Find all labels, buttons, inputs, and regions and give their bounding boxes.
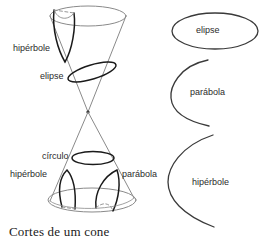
- upper-hyperbola-cut: [54, 10, 75, 62]
- upper-cone-left-slant: [50, 16, 88, 112]
- upper-ellipse-cut: [66, 58, 118, 86]
- section-label-ellipse: elipse: [196, 26, 220, 35]
- sections-column-drawing: [168, 13, 258, 227]
- label-hiperbole-upper: hipérbole: [13, 44, 50, 53]
- label-elipse-cut: elipse: [40, 72, 64, 81]
- lower-parabola-cut: [96, 170, 119, 211]
- label-circulo-cut: círculo: [42, 152, 69, 161]
- upper-cone-top-rim: [50, 6, 126, 26]
- upper-hyperbola-chord-hidden: [54, 10, 74, 13]
- upper-hyperbola-rim-front: [54, 10, 74, 18]
- conic-sections-figure: hipérbole elipse círculo hipérbole paráb…: [0, 0, 260, 248]
- figure-drawing: [0, 0, 260, 248]
- section-label-parabola: parábola: [190, 88, 225, 97]
- label-parabola-lower: parábola: [122, 170, 157, 179]
- label-hiperbole-lower: hipérbole: [10, 170, 47, 179]
- section-label-hyperbola: hipérbole: [192, 178, 229, 187]
- lower-circle-cut: [72, 152, 114, 165]
- figure-caption: Cortes de um cone: [9, 224, 110, 240]
- cone-group: [48, 6, 136, 212]
